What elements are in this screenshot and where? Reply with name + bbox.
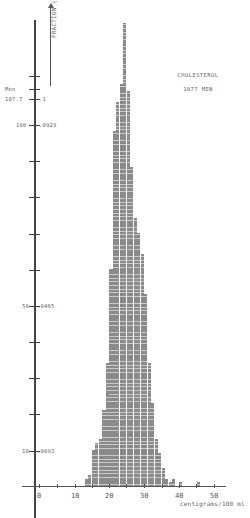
y-tick-minor <box>29 76 40 77</box>
x-tick-40 <box>179 484 180 488</box>
x-tick-label-20: 20 <box>105 492 113 500</box>
x-tick-label-0: 0 <box>37 492 41 500</box>
x-axis-title: centigrams/100 ml <box>180 500 245 507</box>
y-tick-minor <box>29 161 40 162</box>
y-tick-minor <box>29 378 40 379</box>
fraction-label-50: .0465 <box>37 303 55 309</box>
x-tick-label-40: 40 <box>175 492 183 500</box>
histogram-bar <box>172 479 176 486</box>
y-tick-minor <box>29 342 40 343</box>
y-tick-minor <box>29 270 40 271</box>
x-tick-label-50: 50 <box>210 492 218 500</box>
x-tick-50 <box>214 484 215 488</box>
x-tick-minor <box>162 484 163 488</box>
x-tick-minor <box>57 484 58 488</box>
y-tick-minor <box>29 89 40 90</box>
x-tick-0 <box>39 484 40 488</box>
x-tick-10 <box>75 484 76 488</box>
y-tick-label-10: 10 <box>22 448 29 454</box>
fraction-label-10: .0093 <box>37 448 55 454</box>
y-tick-minor <box>29 197 40 198</box>
y-tick-minor <box>29 414 40 415</box>
x-tick-label-10: 10 <box>71 492 79 500</box>
x-tick-30 <box>144 484 145 488</box>
y-tick-label-100: 100 <box>16 122 27 128</box>
fraction-label-107: .1 <box>39 96 46 102</box>
y-tick-label-107: 107.7 <box>5 96 23 102</box>
y-axis-title: Men <box>5 86 16 92</box>
x-tick-minor <box>126 484 127 488</box>
chart-subtitle: 1077 MEN <box>168 86 228 92</box>
x-tick-20 <box>109 484 110 488</box>
y-axis <box>34 20 36 518</box>
y-tick-label-50: 50 <box>22 303 29 309</box>
fraction-label-100: .0929 <box>39 122 57 128</box>
chart-title: CHOLESTEROL <box>168 72 228 78</box>
x-tick-minor <box>92 484 93 488</box>
x-tick-minor <box>196 484 197 488</box>
y-tick-minor <box>29 234 40 235</box>
x-tick-label-30: 30 <box>140 492 148 500</box>
fraction-axis-label: FRACTION (per cg.) <box>50 0 57 38</box>
